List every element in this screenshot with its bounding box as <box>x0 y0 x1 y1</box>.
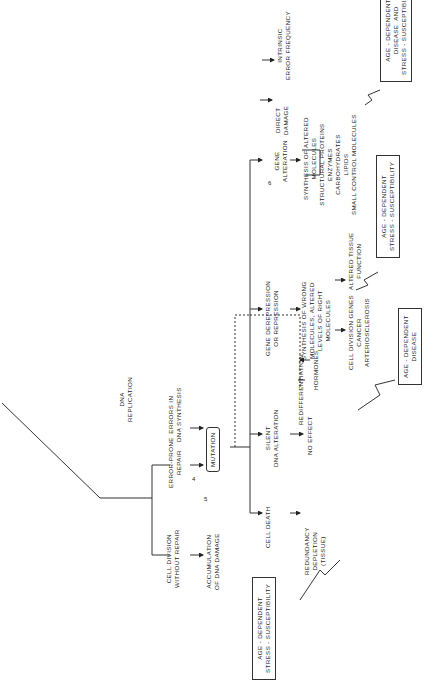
marker-5: 5 <box>204 496 207 502</box>
age-dependent-stress-box-mid: AGE - DEPENDENT STRESS - SUSCEPTIBILITY <box>376 155 400 258</box>
connector-lines <box>0 0 438 700</box>
age-dependent-disease-stress-box-top: AGE - DEPENDENT DISEASE AND STRESS - SUS… <box>380 0 412 82</box>
altered-tissue-function-label: ALTERED TISSUE FUNCTION <box>347 232 363 290</box>
age-dependent-stress-box-bottom: AGE - DEPENDENT STRESS - SUSCEPTIBILITY <box>252 577 276 680</box>
aging-dna-flow-diagram: DNA REPLICATION CELL DIVISION WITHOUT RE… <box>0 0 438 700</box>
marker-4: 4 <box>192 476 195 482</box>
marker-6: 6 <box>268 180 271 186</box>
gene-alteration-label: GENE ALTERATION <box>273 140 289 182</box>
molecule-list-label: STRUCTURAL PROTEINS ENZYMES CARBOHYDRATE… <box>318 114 358 215</box>
gene-derepression-label: GENE DEREPRESSION OR REPRESSION <box>264 281 280 356</box>
no-effect-label: NO EFFECT <box>306 416 314 455</box>
error-prone-repair-label: ERROR-PRONE REPAIR <box>167 437 183 488</box>
synthesis-wrong-molecules-label: SYNTHESIS OF WRONG MOLECULES, ALTERED LE… <box>300 281 332 360</box>
age-dependent-disease-box: AGE - DEPENDENT DISEASE <box>398 308 422 385</box>
mutation-node: MUTATION <box>206 427 220 472</box>
accumulation-dna-damage-label: ACCUMULATION OF DNA DAMAGE <box>205 533 221 590</box>
direct-damage-label: DIRECT DAMAGE <box>274 106 290 135</box>
silent-dna-alteration-label: SILENT DNA ALTERATION <box>264 409 280 467</box>
redifferentiation-label: REDIFFERENTIATION <box>297 355 305 425</box>
cell-death-label: CELL DEATH <box>264 507 272 548</box>
cell-division-genes-label: CELL DIVISION GENES CANCER ARTERIOSCLERO… <box>347 295 371 370</box>
errors-in-dna-synthesis-label: ERRORS IN DNA SYNTHESIS <box>167 387 183 442</box>
intrinsic-error-frequency-label: INTRINSIC ERROR FREQUENCY <box>276 11 292 80</box>
synthesis-altered-molecules-label: SYNTHESIS OF ALTERED MOLECULES <box>302 117 318 200</box>
redundancy-depletion-label: REDUNDANCY DEPLETION (TISSUE) <box>303 527 327 575</box>
dna-replication-label: DNA REPLICATION <box>118 377 134 422</box>
cell-division-without-repair-label: CELL DIVISION WITHOUT REPAIR <box>165 529 181 588</box>
